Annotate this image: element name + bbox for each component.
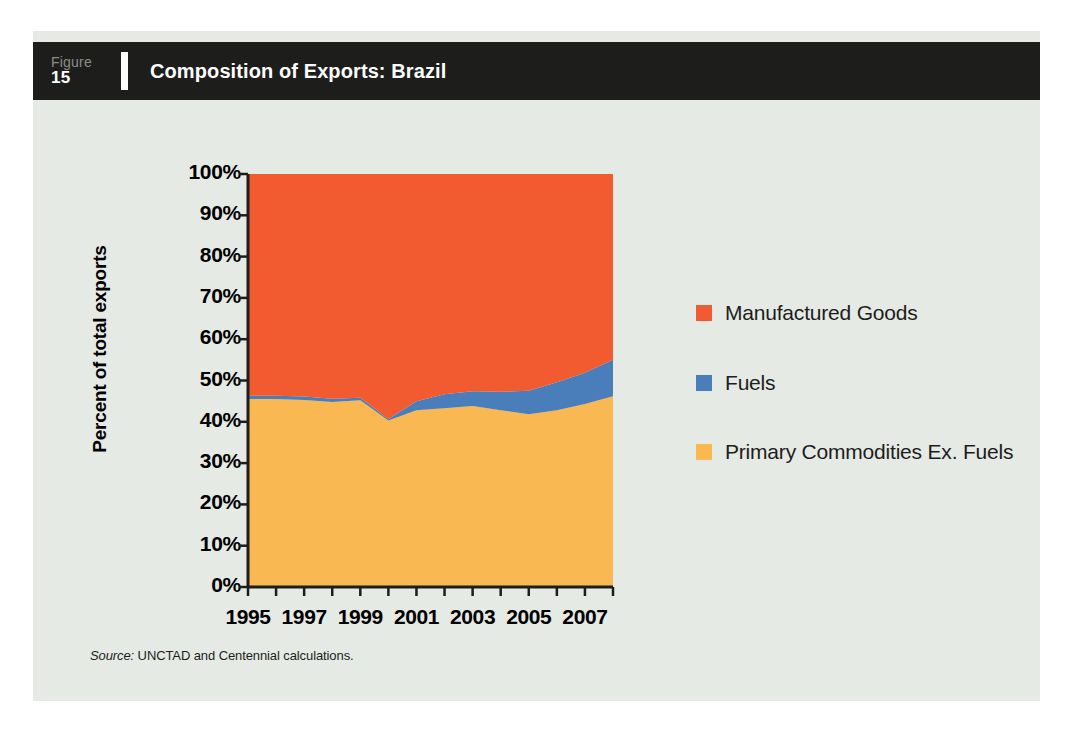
legend-label: Manufactured Goods [725,300,918,326]
chart-container: Percent of total exports 0%10%20%30%40%5… [33,100,1040,701]
legend-item-manufactured-goods[interactable]: Manufactured Goods [696,300,1016,326]
figure-header-bar: Figure 15 Composition of Exports: Brazil [33,42,1040,100]
figure-label-word: Figure [51,55,121,70]
figure-title: Composition of Exports: Brazil [150,60,446,83]
legend-swatch-icon [696,444,712,460]
header-divider [121,52,128,90]
legend-item-fuels[interactable]: Fuels [696,370,1016,396]
legend-label: Primary Commodities Ex. Fuels [725,439,1013,465]
legend-item-primary-commodities[interactable]: Primary Commodities Ex. Fuels [696,439,1016,465]
legend-swatch-icon [696,375,712,391]
figure-number: 15 [51,69,121,87]
figure-panel: Figure 15 Composition of Exports: Brazil… [33,31,1040,701]
source-note: Source: UNCTAD and Centennial calculatio… [90,648,354,663]
source-lead: Source: [90,648,134,663]
source-text: UNCTAD and Centennial calculations. [134,648,353,663]
area-primary-commodities [248,396,613,587]
legend-label: Fuels [725,370,775,396]
chart-legend: Manufactured GoodsFuelsPrimary Commoditi… [696,300,1016,509]
stacked-area-plot [33,100,733,660]
legend-swatch-icon [696,305,712,321]
figure-number-block: Figure 15 [33,55,121,88]
plot-series-areas [248,174,613,587]
